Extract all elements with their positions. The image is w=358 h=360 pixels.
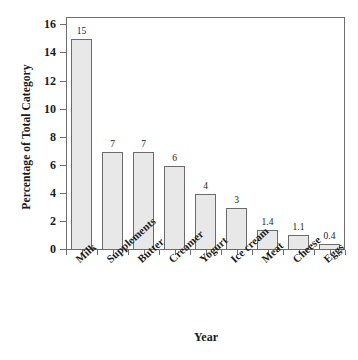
bar-value-label: 6 (155, 153, 195, 164)
x-axis-title: Year (66, 330, 346, 345)
y-tick-label: 8 (22, 130, 56, 144)
bar-value-label: 3 (217, 195, 257, 206)
y-tick-mark (60, 165, 66, 166)
y-tick-label: 2 (22, 214, 56, 228)
y-tick-mark (60, 193, 66, 194)
x-tick-mark (221, 250, 222, 255)
bar-value-label: 7 (124, 139, 164, 150)
x-tick-mark (128, 250, 129, 255)
bar (71, 39, 93, 250)
bar-value-label: 4 (186, 181, 226, 192)
y-tick-label: 10 (22, 102, 56, 116)
y-tick-label: 12 (22, 74, 56, 88)
y-tick-mark (60, 221, 66, 222)
y-tick-label: 6 (22, 158, 56, 172)
bar (164, 166, 186, 250)
y-tick-mark (60, 137, 66, 138)
x-tick-mark (159, 250, 160, 255)
x-tick-mark (314, 250, 315, 255)
x-tick-mark (345, 250, 346, 255)
y-tick-label: 14 (22, 45, 56, 59)
y-tick-label: 4 (22, 186, 56, 200)
x-tick-mark (190, 250, 191, 255)
x-tick-mark (283, 250, 284, 255)
y-tick-label: 16 (22, 17, 56, 31)
y-tick-mark (60, 24, 66, 25)
x-tick-mark (252, 250, 253, 255)
y-tick-mark (60, 109, 66, 110)
x-tick-mark (66, 250, 67, 255)
x-tick-mark (97, 250, 98, 255)
bar (102, 152, 124, 250)
bar-chart: Percentage of Total Category 02468101214… (0, 0, 358, 360)
y-tick-mark (60, 81, 66, 82)
y-tick-mark (60, 52, 66, 53)
bar-value-label: 15 (62, 26, 102, 37)
y-tick-label: 0 (22, 242, 56, 256)
